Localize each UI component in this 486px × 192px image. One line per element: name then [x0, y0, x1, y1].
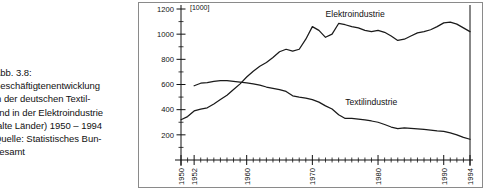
x-tick-label: 1950: [177, 168, 186, 185]
caption-line-6: Quelle: Statistisches Bun-: [0, 132, 144, 145]
series-group: [181, 22, 470, 139]
x-tick-label: 1994: [466, 168, 475, 185]
x-axis: 1950195219601970198019901994: [175, 155, 475, 185]
y-axis: 20040060080010001200: [157, 5, 185, 166]
y-tick-label: 800: [161, 55, 174, 64]
x-tick-label: 1952: [190, 168, 199, 185]
series-label-textilindustrie: Textilindustrie: [345, 97, 397, 107]
x-tick-label: 1980: [374, 168, 383, 185]
series-line-elektroindustrie: [181, 22, 470, 120]
series-label-elektroindustrie: Elektroindustrie: [326, 9, 385, 19]
chart-svg: 20040060080010001200 1950195219601970198…: [138, 0, 486, 192]
caption-line-2: Beschäftigtenentwicklung: [0, 79, 144, 92]
y-tick-label: 600: [161, 80, 174, 89]
y-tick-label: 200: [161, 131, 174, 140]
caption-line-4: und in der Elektroindustrie: [0, 106, 144, 119]
y-tick-label: 400: [161, 105, 174, 114]
x-tick-label: 1970: [308, 168, 317, 185]
caption-line-3: in der deutschen Textil-: [0, 92, 144, 105]
y-tick-label: 1200: [157, 5, 174, 14]
x-tick-label: 1960: [243, 168, 252, 185]
line-chart: 20040060080010001200 1950195219601970198…: [138, 0, 486, 192]
figure-caption: Abb. 3.8: Beschäftigtenentwicklung in de…: [0, 66, 144, 158]
series-line-textilindustrie: [194, 81, 470, 140]
figure-abb-3-8: Abb. 3.8: Beschäftigtenentwicklung in de…: [0, 0, 486, 192]
caption-line-7: desamt: [0, 145, 144, 158]
y-tick-label: 1000: [157, 30, 174, 39]
series-labels: ElektroindustrieTextilindustrie: [326, 9, 398, 107]
caption-line-5: (alte Länder) 1950 – 1994: [0, 119, 144, 132]
unit-label: [1000]: [190, 4, 210, 12]
unit-label-group: [1000]: [190, 4, 210, 12]
caption-line-1: Abb. 3.8:: [0, 66, 144, 79]
x-tick-label: 1990: [440, 168, 449, 185]
